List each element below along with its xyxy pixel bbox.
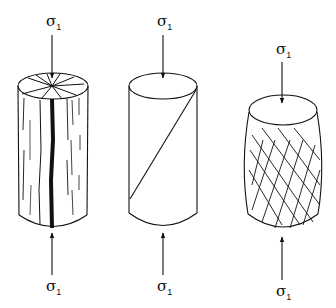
sigma-label-bottom-1: σ1 xyxy=(46,279,61,297)
sigma-label-bottom-3: σ1 xyxy=(276,284,291,302)
sigma-label-top-1: σ1 xyxy=(46,14,61,32)
specimen-1-axial-splitting xyxy=(18,35,88,275)
specimen-2-shear-fracture xyxy=(129,35,197,275)
diagram-canvas: σ1 σ1 σ1 σ1 σ1 σ1 xyxy=(0,0,336,308)
sigma-label-top-2: σ1 xyxy=(157,14,172,32)
specimen-3-ductile-barrel xyxy=(244,62,322,280)
sigma-label-top-3: σ1 xyxy=(276,42,291,60)
sigma-label-bottom-2: σ1 xyxy=(157,279,172,297)
